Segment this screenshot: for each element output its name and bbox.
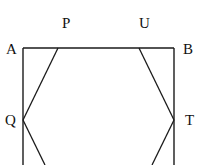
label-q: Q [5, 112, 16, 128]
edge-q-lower [23, 120, 45, 165]
label-p: P [62, 15, 70, 31]
edge-ut [139, 48, 174, 120]
label-b: B [183, 41, 193, 57]
label-a: A [6, 41, 17, 57]
edge-pq [23, 48, 58, 120]
label-u: U [139, 15, 150, 31]
label-t: T [185, 112, 194, 128]
edge-t-lower [152, 120, 174, 165]
geometry-diagram: A B P U Q T [0, 0, 197, 165]
